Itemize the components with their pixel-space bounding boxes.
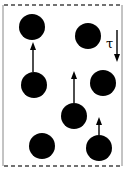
particle-7 [86,135,112,161]
particle-2 [75,23,101,49]
shear-stress-label: τ [106,36,113,51]
arrowhead-up-icon [96,117,102,125]
arrowhead-up-icon [30,42,36,50]
particle-3 [21,72,47,98]
particle-5 [61,103,87,129]
shear-arrowhead-icon [114,54,120,62]
arrowhead-up-icon [71,71,77,79]
particles-group [19,14,116,161]
particle-1 [19,14,45,40]
particle-6 [29,133,55,159]
particle-shear-diagram: τ [0,0,126,177]
particle-4 [90,70,116,96]
